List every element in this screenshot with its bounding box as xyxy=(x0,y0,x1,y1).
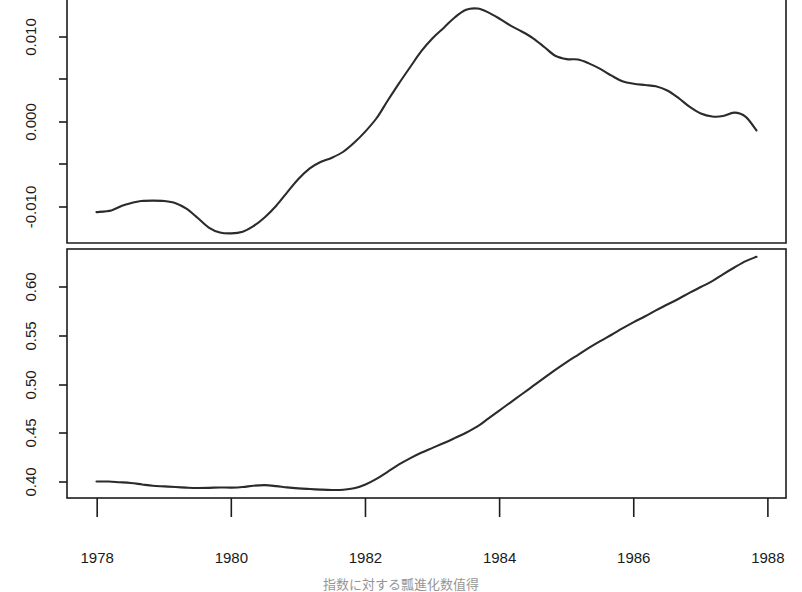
ytick-label-bottom-0: 0.60 xyxy=(22,272,39,301)
xtick-label-1986: 1986 xyxy=(617,549,650,566)
ytick-label-top-2: -0.010 xyxy=(22,186,39,229)
ytick-label-top-1: 0.000 xyxy=(22,103,39,141)
ytick-label-bottom-1: 0.55 xyxy=(22,321,39,350)
figure-caption: 指数に対する瓢進化数值得 xyxy=(323,577,479,592)
two-panel-time-series-figure: 0.010 0.000 -0.010 0.60 0.55 0.50 0.45 0… xyxy=(0,0,802,592)
xtick-label-1984: 1984 xyxy=(483,549,516,566)
xtick-label-1980: 1980 xyxy=(215,549,248,566)
ytick-label-bottom-2: 0.50 xyxy=(22,370,39,399)
ytick-label-bottom-3: 0.45 xyxy=(22,418,39,447)
xtick-label-1978: 1978 xyxy=(80,549,113,566)
caption-line: 指数に対する瓢進化数值得 xyxy=(323,577,479,592)
xtick-label-1988: 1988 xyxy=(751,549,784,566)
ytick-label-bottom-4: 0.40 xyxy=(22,467,39,496)
xtick-label-1982: 1982 xyxy=(349,549,382,566)
ytick-label-top-0: 0.010 xyxy=(22,18,39,56)
